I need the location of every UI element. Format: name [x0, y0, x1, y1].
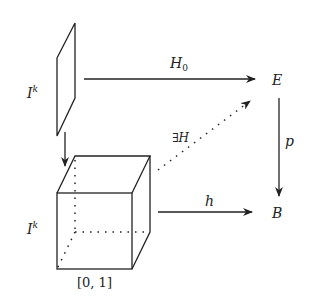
h-label: h: [205, 194, 214, 208]
lift-h-label: ∃H: [172, 132, 189, 144]
homotopy-lifting-diagram: Ik Ik [0, 1] H0 ∃H h p E B: [0, 0, 309, 307]
cube-hidden-edges: [57, 160, 150, 269]
diagram-graphics: [0, 0, 309, 307]
face-label: Ik: [27, 85, 38, 100]
h0-label: H0: [170, 56, 188, 73]
face-parallelogram: [57, 23, 75, 136]
cube: [57, 156, 150, 269]
p-label: p: [285, 134, 294, 148]
node-e: E: [272, 73, 282, 87]
node-b: B: [272, 206, 282, 220]
interval-label: [0, 1]: [77, 276, 112, 289]
cube-label: Ik: [27, 221, 38, 236]
